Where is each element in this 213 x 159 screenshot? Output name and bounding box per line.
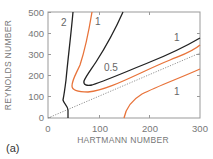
y-tick-label: 500 xyxy=(28,7,44,18)
plot-frame xyxy=(48,12,200,118)
contour-label: 1 xyxy=(174,86,180,97)
contour-1-lower xyxy=(124,69,200,118)
y-tick-labels: 0 100 200 300 400 500 xyxy=(28,7,44,123)
y-tick-label: 200 xyxy=(28,70,44,81)
x-tick-label: 100 xyxy=(92,123,108,134)
contour-label: 1 xyxy=(95,16,101,27)
chart-canvas: 0 100 200 300 400 500 0 100 200 300 HART… xyxy=(0,0,213,159)
y-axis-label: REYNOLDS NUMBER xyxy=(3,20,13,110)
x-tick-label: 300 xyxy=(192,123,208,134)
contour-0-5 xyxy=(84,12,200,85)
y-tick-label: 300 xyxy=(28,49,44,60)
x-axis-label: HARTMANN NUMBER xyxy=(77,135,169,145)
y-tick-label: 400 xyxy=(28,28,44,39)
contour-label: 0.5 xyxy=(104,62,118,73)
x-tick-label: 200 xyxy=(142,123,158,134)
panel-label: (a) xyxy=(6,142,19,154)
contour-label: 2 xyxy=(61,17,67,28)
contour-label: 1 xyxy=(174,32,180,43)
x-tick-labels: 0 100 200 300 xyxy=(45,123,208,134)
y-tick-label: 100 xyxy=(28,91,44,102)
contour-1-upper xyxy=(72,12,200,92)
y-tick-label: 0 xyxy=(39,112,44,123)
x-tick-label: 0 xyxy=(45,123,50,134)
